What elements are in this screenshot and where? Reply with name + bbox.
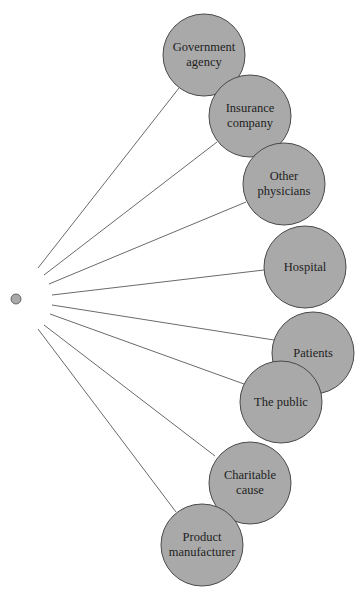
node-circle-product-manufacturer [161,504,243,586]
connector-line-the-public [50,314,244,384]
stakeholder-nodes [161,14,354,586]
connector-line-charitable-cause [44,325,215,456]
connector-line-hospital [52,270,264,295]
connector-line-product-manufacturer [38,329,176,512]
source-dot [11,294,21,304]
node-circle-hospital [264,226,346,308]
connector-line-insurance-company [44,142,217,275]
connector-line-other-physicians [49,202,246,284]
connector-line-government-agency [38,88,179,268]
node-circle-other-physicians [243,143,325,225]
stakeholder-diagram [0,0,363,594]
node-circle-the-public [240,361,322,443]
connector-line-patients [52,305,274,340]
